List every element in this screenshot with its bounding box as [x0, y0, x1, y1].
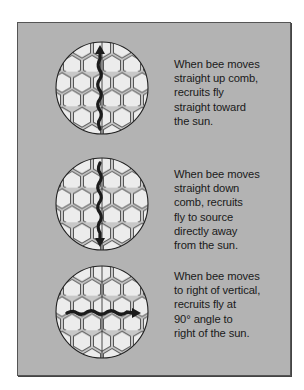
honeycomb-up-icon	[55, 41, 149, 135]
diagram-panel: When bee moves straight up comb, recruit…	[17, 22, 291, 376]
caption-straight-down: When bee moves straight down comb, recru…	[174, 167, 260, 252]
caption-right-of-vertical: When bee moves to right of vertical, rec…	[174, 269, 260, 340]
honeycomb-right-icon	[55, 265, 149, 359]
honeycomb-down-icon	[55, 157, 149, 251]
caption-straight-up: When bee moves straight up comb, recruit…	[174, 57, 260, 128]
